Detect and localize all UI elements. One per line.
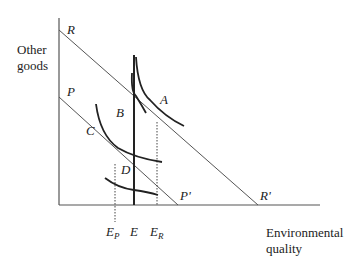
indifference-curve-c	[96, 104, 162, 162]
label-r: R	[66, 22, 75, 37]
label-e: E	[129, 224, 138, 239]
label-p-prime: P'	[179, 188, 191, 203]
label-r-prime: R'	[259, 188, 271, 203]
label-b: B	[116, 105, 124, 120]
label-d: D	[120, 162, 131, 177]
label-ep: EP	[105, 224, 120, 241]
label-p: P	[66, 84, 75, 99]
x-axis-title-line2: quality	[266, 241, 343, 257]
label-c: C	[86, 123, 95, 138]
label-a: A	[159, 92, 168, 107]
y-axis-title-line2: goods	[17, 58, 48, 74]
x-axis-title-line1: Environmental	[266, 225, 343, 241]
indifference-curve-d	[105, 178, 158, 195]
budget-line-r	[59, 30, 258, 205]
y-axis-title-line1: Other	[17, 42, 48, 58]
label-er: ER	[149, 224, 164, 241]
x-axis-title: Environmental quality	[266, 225, 343, 257]
y-axis-title: Other goods	[17, 42, 48, 74]
